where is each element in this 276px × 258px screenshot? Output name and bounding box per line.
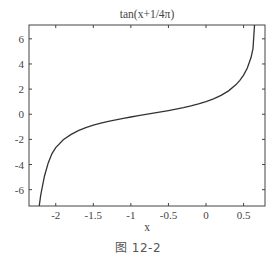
y-tick-label: 2	[19, 83, 25, 95]
y-tick-label: 0	[19, 108, 25, 120]
y-tick-label: 6	[19, 33, 25, 45]
plot-area: -2-1.5-1-0.500.5 -6-4-20246	[15, 25, 265, 221]
x-tick-label: -2	[51, 209, 60, 221]
y-tick-label: 4	[19, 58, 25, 70]
x-tick-label: 0.5	[237, 209, 251, 221]
y-tick-label: -6	[15, 184, 25, 196]
chart-figure: tan(x+1/4π) -2-1.5-1-0.500.5 -6-4-20246 …	[0, 0, 276, 258]
chart-title: tan(x+1/4π)	[120, 8, 175, 21]
x-tick-label: 0	[203, 209, 209, 221]
x-tick-label: -1.5	[85, 209, 103, 221]
y-tick-label: -4	[15, 159, 25, 171]
plot-frame	[29, 25, 265, 206]
x-tick-label: -0.5	[160, 209, 178, 221]
x-tick-label: -1	[126, 209, 135, 221]
y-tick-labels: -6-4-20246	[15, 33, 25, 196]
figure-caption: 图 12-2	[0, 238, 276, 255]
x-tick-labels: -2-1.5-1-0.500.5	[51, 209, 251, 221]
y-tick-label: -2	[15, 133, 24, 145]
x-axis-label: x	[144, 221, 150, 233]
